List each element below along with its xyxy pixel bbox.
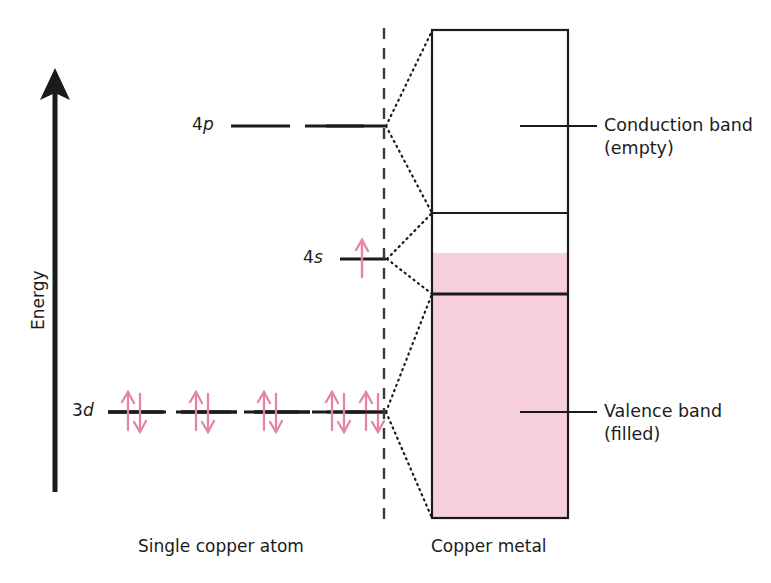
orbital-label-4p-n: 4 xyxy=(192,114,203,134)
energy-axis-label: Energy xyxy=(28,270,48,330)
orbital-label-4p: 4p xyxy=(192,114,214,134)
orbital-label-4s: 4s xyxy=(303,247,323,267)
orbital-label-4s-sub: s xyxy=(314,247,323,267)
orbital-label-3d-n: 3 xyxy=(72,400,83,420)
conduction-band-label: Conduction band (empty) xyxy=(604,114,753,160)
valence-band-fill xyxy=(432,294,568,518)
conduction-band-label-line2: (empty) xyxy=(604,137,753,160)
diagram-canvas xyxy=(0,0,771,583)
partial-band-fill xyxy=(432,253,568,294)
orbital-label-3d-sub: d xyxy=(83,400,94,420)
orbital-label-4s-n: 4 xyxy=(303,247,314,267)
valence-band-label-line2: (filled) xyxy=(604,423,722,446)
conduction-band-label-line1: Conduction band xyxy=(604,114,753,137)
orbital-label-3d: 3d xyxy=(72,400,94,420)
caption-copper-metal: Copper metal xyxy=(431,536,547,556)
valence-band-label-line1: Valence band xyxy=(604,400,722,423)
orbital-label-4p-sub: p xyxy=(203,114,214,134)
energy-band-diagram: Energy 4p 4s 3d Conduction band (empty) … xyxy=(0,0,771,583)
fan-connectors xyxy=(386,31,432,518)
valence-band-label: Valence band (filled) xyxy=(604,400,722,446)
caption-single-copper-atom: Single copper atom xyxy=(138,536,304,556)
